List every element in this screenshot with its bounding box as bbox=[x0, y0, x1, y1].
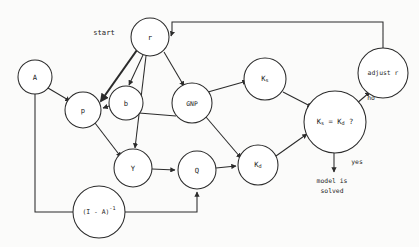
node-adjust-r-label: adjust r bbox=[368, 69, 399, 77]
edge-kd-to-decision bbox=[276, 134, 307, 156]
node-adjust-r[interactable]: adjust r bbox=[358, 48, 408, 98]
flowchart-diagram: r A p b GNP bbox=[0, 0, 419, 247]
model-solved-line2: solved bbox=[320, 187, 343, 195]
node-decision-label-base2: = K bbox=[324, 117, 342, 126]
edge-gnp-to-kd bbox=[206, 117, 241, 158]
node-kd-label-sub: d bbox=[259, 163, 262, 169]
edge-b-to-gnp bbox=[139, 113, 176, 116]
node-y[interactable]: Y bbox=[114, 149, 152, 187]
node-leontief[interactable]: (I - A)-1 bbox=[73, 186, 125, 238]
edge-leontief-to-q bbox=[125, 192, 197, 212]
node-decision-label-base3: ? bbox=[345, 117, 354, 126]
node-r[interactable]: r bbox=[131, 18, 169, 56]
edge-a-to-p bbox=[48, 88, 70, 101]
node-layer: r A p b GNP bbox=[18, 18, 408, 238]
edge-r-to-gnp bbox=[164, 52, 184, 86]
model-solved-line1: model is bbox=[317, 177, 348, 185]
node-leontief-label-sup: -1 bbox=[109, 205, 115, 211]
node-y-label: Y bbox=[131, 164, 136, 173]
node-ks-label-sub: s bbox=[266, 77, 269, 83]
node-q[interactable]: Q bbox=[178, 151, 216, 189]
start-label: start bbox=[93, 28, 115, 37]
edge-q-to-kd bbox=[216, 166, 236, 168]
node-gnp[interactable]: GNP bbox=[172, 83, 212, 123]
node-kd[interactable]: Kd bbox=[238, 145, 278, 185]
node-decision[interactable]: Ks = Kd ? bbox=[304, 91, 366, 153]
node-leontief-label-base: (I - A) bbox=[82, 208, 109, 216]
edge-p-to-y bbox=[95, 123, 121, 157]
edge-y-to-q bbox=[152, 169, 175, 170]
node-p[interactable]: p bbox=[65, 92, 101, 128]
edge-b-to-p bbox=[103, 106, 109, 108]
edge-ks-to-decision bbox=[283, 92, 312, 107]
node-p-label: p bbox=[81, 106, 85, 115]
node-ks[interactable]: Ks bbox=[244, 58, 286, 100]
node-b-label: b bbox=[124, 99, 128, 108]
node-r-label: r bbox=[148, 33, 153, 42]
node-q-label: Q bbox=[195, 166, 199, 175]
edge-gnp-to-ks bbox=[208, 81, 247, 92]
yes-branch-label: yes bbox=[351, 158, 363, 166]
node-gnp-label: GNP bbox=[186, 100, 198, 108]
no-branch-label: no bbox=[367, 94, 375, 102]
node-a[interactable]: A bbox=[18, 60, 52, 94]
node-a-label: A bbox=[33, 73, 38, 82]
node-b[interactable]: b bbox=[109, 86, 143, 120]
edge-adjust-to-r bbox=[171, 22, 383, 48]
flowchart-canvas: r A p b GNP bbox=[0, 0, 419, 247]
